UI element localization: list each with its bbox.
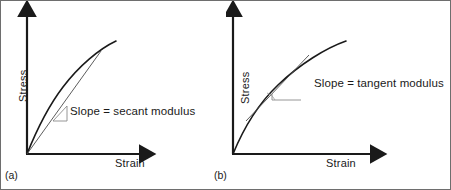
stress-strain-curve — [27, 41, 116, 154]
y-axis-title: Stress — [17, 70, 29, 102]
x-axis-title: Strain — [115, 157, 145, 169]
x-axis-title: Strain — [326, 157, 356, 169]
y-axis-title: Stress — [239, 72, 251, 104]
panel-caption-b: (b) — [214, 169, 227, 181]
panel-tangent-modulus: Stress Strain Slope = tangent modulus (b… — [226, 1, 451, 190]
slope-angle-marker-icon — [272, 94, 301, 100]
secant-line — [27, 51, 101, 154]
plot-area-secant — [1, 1, 227, 190]
secant-modulus-annotation: Slope = secant modulus — [70, 105, 195, 117]
panel-caption-a: (a) — [5, 169, 18, 181]
tangent-line — [246, 55, 309, 121]
panel-secant-modulus: Stress Strain Slope = secant modulus (a) — [1, 1, 227, 190]
tangent-modulus-annotation: Slope = tangent modulus — [314, 77, 444, 89]
stress-strain-figure: Stress Strain Slope = secant modulus (a) — [0, 0, 451, 190]
